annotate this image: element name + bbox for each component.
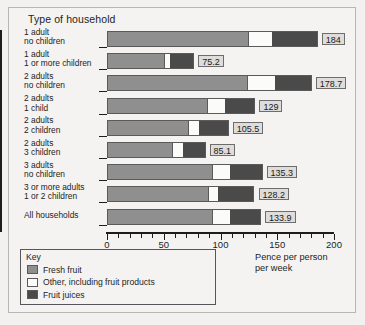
bar-segment-fresh [108,121,189,135]
bar-segment-other [212,165,231,179]
legend-entry: Other, including fruit products [27,277,155,288]
x-axis-tick-label: 150 [269,239,285,250]
legend-swatch [27,290,38,299]
x-axis-minor-tick [266,234,267,238]
bar-segment-juice [183,143,205,157]
x-axis-minor-tick [289,234,290,238]
bar-segment-juice [199,121,227,135]
bar-value-label: 85.1 [210,144,236,156]
bar-row [107,31,318,47]
x-axis-minor-tick [232,234,233,238]
bar-segment-fresh [108,54,165,68]
y-axis-category-tick [99,202,107,203]
y-axis-category-tick [99,180,107,181]
legend-swatch [27,265,38,274]
y-axis-line [0,30,2,232]
x-axis-minor-tick [311,234,312,238]
x-axis-label: Pence per person per week [255,252,328,274]
legend-entry: Fruit juices [27,289,85,300]
x-axis-minor-tick [323,234,324,238]
bar-segment-other [212,210,231,224]
x-axis-label-line1: Pence per person [255,252,328,263]
x-axis-minor-tick [141,234,142,238]
bar-row [107,53,194,69]
x-axis-minor-tick [198,234,199,238]
bar-segment-juice [230,210,260,224]
legend-title: Key [26,252,41,262]
chart-page: Type of household 050100150200 1 adultno… [0,0,365,325]
x-axis-minor-tick [255,234,256,238]
y-axis-category-tick [99,47,107,48]
bar-segment-fresh [108,143,173,157]
category-label-line: no children [24,81,104,91]
bar-segment-other [247,76,276,90]
bar-value-label: 75.2 [198,55,224,67]
y-axis-category-label: All households [24,211,104,221]
legend-label: Fruit juices [43,290,85,300]
y-axis-category-label: 1 adultno children [24,28,104,47]
bar-segment-fresh [108,187,209,201]
bar-segment-other [248,32,273,46]
y-axis-category-tick [99,114,107,115]
bar-segment-juice [218,187,253,201]
bar-row [107,120,229,136]
bar-row [107,98,255,114]
y-axis-category-tick [99,158,107,159]
bar-segment-fresh [108,99,208,113]
bar-row [107,164,263,180]
bar-value-label: 128.2 [259,188,290,200]
y-axis-category-label: 1 adult1 or more children [24,50,104,69]
y-axis-category-label: 2 adults1 child [24,94,104,113]
bar-row [107,142,206,158]
legend-label: Other, including fruit products [43,277,155,287]
bar-row [107,186,254,202]
x-axis-tick-label: 200 [326,239,342,250]
bar-value-label: 133.9 [265,211,296,223]
x-axis-label-line2: per week [255,263,328,274]
x-axis-minor-tick [152,234,153,238]
category-label-line: no children [24,37,104,47]
bar-row [107,75,312,91]
bar-segment-fresh [108,165,213,179]
category-label-line: 1 or more children [24,59,104,69]
y-axis-category-tick [99,225,107,226]
y-axis-category-tick [99,136,107,137]
bar-value-label: 105.5 [233,122,264,134]
y-axis-category-label: 2 adultsno children [24,72,104,91]
bar-value-label: 135.3 [267,166,298,178]
x-axis-minor-tick [209,234,210,238]
bar-segment-juice [170,54,193,68]
x-axis-minor-tick [300,234,301,238]
category-label-line: 2 children [24,126,104,136]
y-axis-category-label: 2 adults3 children [24,139,104,158]
bar-value-label: 184 [322,33,345,45]
legend-entry: Fresh fruit [27,264,82,275]
y-axis-category-label: 2 adults2 children [24,116,104,135]
x-axis-minor-tick [186,234,187,238]
category-label-line: 1 or 2 children [24,192,104,202]
legend-swatch [27,278,38,287]
y-axis-category-label: 3 adultsno children [24,161,104,180]
bar-segment-fresh [108,32,249,46]
y-axis-category-tick [99,91,107,92]
bar-segment-fresh [108,76,248,90]
legend-box: Key Fresh fruitOther, including fruit pr… [20,249,216,305]
legend-label: Fresh fruit [43,265,82,275]
bar-segment-juice [230,165,262,179]
y-axis-category-label: 3 or more adults1 or 2 children [24,183,104,202]
page-title: Type of household [28,13,116,25]
bar-segment-juice [225,99,255,113]
bar-value-label: 178.7 [316,77,347,89]
x-axis-minor-tick [118,234,119,238]
bar-row [107,209,261,225]
y-axis-category-tick [99,69,107,70]
x-axis-minor-tick [243,234,244,238]
bar-segment-juice [275,76,311,90]
x-axis-minor-tick [130,234,131,238]
bar-segment-fresh [108,210,213,224]
bar-segment-other [207,99,226,113]
category-label-line: All households [24,211,104,221]
category-label-line: no children [24,170,104,180]
bar-segment-juice [272,32,317,46]
category-label-line: 3 children [24,148,104,158]
